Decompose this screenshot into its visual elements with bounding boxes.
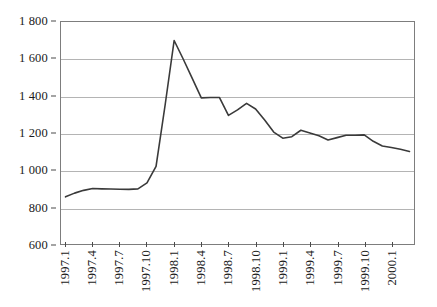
x-tick-mark [338,242,339,247]
x-tick-mark [201,242,202,247]
x-tick-label: 1999.4 [304,250,317,286]
plot-area [60,21,415,245]
x-tick-label: 1998.10 [249,250,262,292]
x-tick-mark [119,242,120,247]
x-tick-mark [392,242,393,247]
y-tick-mark [51,21,56,22]
x-tick-mark [228,242,229,247]
series-line-group [61,22,414,244]
line-chart: 1 8001 6001 4001 2001 000800600 1997.119… [0,0,437,307]
y-tick-label: 1 800 [19,15,48,28]
y-tick-label: 1 000 [19,164,48,177]
x-tick-mark [65,242,66,247]
x-tick-label: 1998.7 [222,250,235,286]
y-tick-label: 800 [29,201,48,214]
x-tick-label: 1997.10 [140,250,153,292]
series-line-1 [66,41,410,197]
x-tick-mark [256,242,257,247]
y-tick-mark [51,58,56,59]
y-axis: 1 8001 6001 4001 2001 000800600 [0,21,56,245]
x-tick-label: 1997.1 [58,250,71,286]
x-tick-label: 1997.4 [86,250,99,286]
y-tick-mark [51,207,56,208]
x-tick-label: 1998.4 [195,250,208,286]
x-tick-mark [174,242,175,247]
x-tick-mark [310,242,311,247]
x-tick-label: 1999.7 [331,250,344,286]
x-tick-mark [365,242,366,247]
y-tick-label: 600 [29,239,48,252]
x-axis: 1997.11997.41997.71997.101998.11998.4199… [60,248,415,307]
x-tick-label: 1999.1 [277,250,290,286]
x-tick-mark [92,242,93,247]
y-tick-label: 1 600 [19,52,48,65]
y-tick-label: 1 400 [19,89,48,102]
x-tick-label: 1999.10 [359,250,372,292]
y-tick-mark [51,133,56,134]
x-tick-mark [146,242,147,247]
x-tick-label: 2000.1 [386,250,399,286]
y-tick-mark [51,170,56,171]
y-tick-mark [51,95,56,96]
y-tick-mark [51,245,56,246]
x-tick-label: 1997.7 [113,250,126,286]
x-tick-mark [283,242,284,247]
y-tick-label: 1 200 [19,127,48,140]
x-tick-label: 1998.1 [168,250,181,286]
